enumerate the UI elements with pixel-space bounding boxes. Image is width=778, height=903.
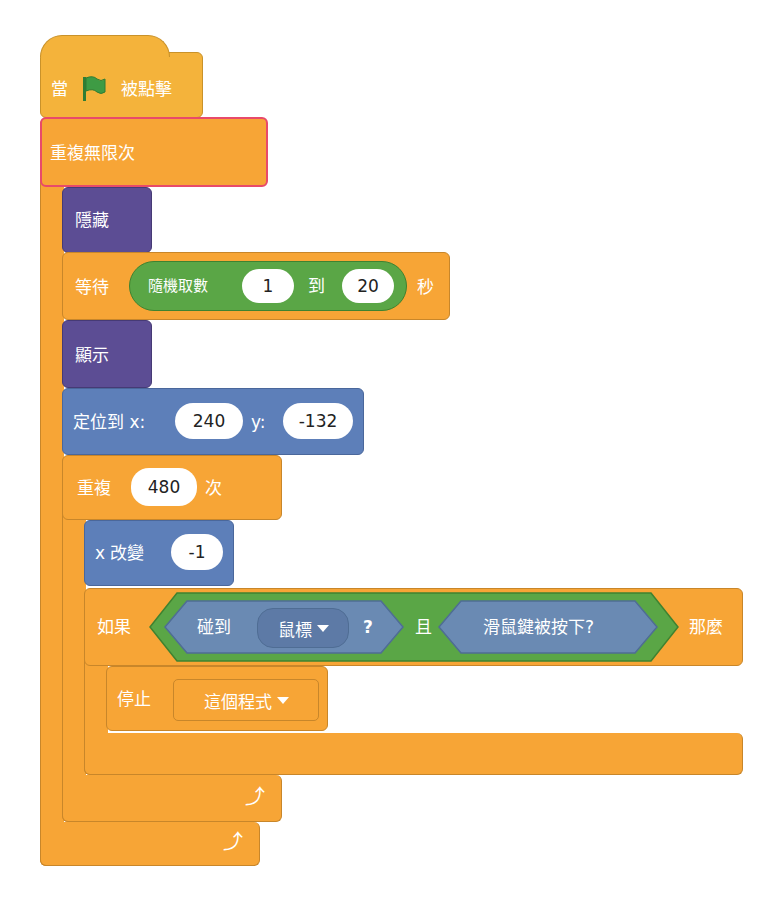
stop-option-dropdown[interactable]: 這個程式 <box>173 679 319 721</box>
touching-label: 碰到 <box>197 617 231 637</box>
forever-block[interactable]: 重複無限次 <box>40 117 268 187</box>
dropdown-arrow-icon <box>277 697 289 704</box>
mouse-down-label: 滑鼠鍵被按下? <box>483 617 594 637</box>
random-to-input[interactable]: 20 <box>342 269 394 303</box>
green-flag-icon <box>81 75 107 107</box>
stop-label: 停止 <box>117 689 151 709</box>
wait-block[interactable]: 等待 隨機取數 1 到 20 秒 <box>62 252 450 320</box>
dropdown-arrow-icon <box>317 625 329 632</box>
change-x-input[interactable]: -1 <box>171 534 223 570</box>
random-label: 隨機取數 <box>148 276 208 296</box>
show-label: 顯示 <box>75 345 109 365</box>
loop-arrow-icon: ⤴ <box>245 787 265 807</box>
and-label: 且 <box>415 617 432 637</box>
goto-y-input[interactable]: -132 <box>283 403 353 439</box>
hat-suffix: 被點擊 <box>121 79 172 99</box>
hide-block[interactable]: 隱藏 <box>62 187 152 253</box>
random-to-label: 到 <box>308 276 325 296</box>
hat-prefix: 當 <box>51 79 68 99</box>
if-label: 如果 <box>97 617 131 637</box>
forever-block-arm <box>40 118 64 866</box>
loop-arrow-icon: ⤴ <box>223 832 243 852</box>
forever-label: 重複無限次 <box>50 143 135 163</box>
change-x-block[interactable]: x 改變 -1 <box>84 520 234 586</box>
if-block-bottom <box>84 733 743 775</box>
goto-label: 定位到 x: <box>73 412 145 432</box>
random-reporter[interactable]: 隨機取數 1 到 20 <box>129 261 407 311</box>
repeat-label: 重複 <box>77 478 111 498</box>
repeat-block-bottom[interactable]: ⤴ <box>62 775 282 822</box>
forever-block-bottom[interactable]: ⤴ <box>40 822 260 866</box>
goto-x-input[interactable]: 240 <box>175 403 243 439</box>
random-from-input[interactable]: 1 <box>242 269 294 303</box>
wait-suffix: 秒 <box>417 277 434 297</box>
repeat-block[interactable]: 重複 480 次 <box>62 455 282 520</box>
hide-label: 隱藏 <box>75 210 109 230</box>
when-flag-clicked-block[interactable]: 當 被點擊 <box>40 52 203 118</box>
goto-y-label: y: <box>251 412 266 432</box>
if-block[interactable]: 如果 碰到 鼠標 ? 且 滑鼠鍵被按下? 那麼 <box>84 588 743 666</box>
if-then-label: 那麼 <box>689 617 723 637</box>
touching-q: ? <box>363 617 373 637</box>
show-block[interactable]: 顯示 <box>62 320 152 388</box>
repeat-count-input[interactable]: 480 <box>131 468 197 506</box>
goto-xy-block[interactable]: 定位到 x: 240 y: -132 <box>62 388 364 455</box>
repeat-suffix: 次 <box>205 478 222 498</box>
change-x-label: x 改變 <box>95 543 144 563</box>
wait-label: 等待 <box>75 277 109 297</box>
hat-cap <box>40 35 170 57</box>
touching-target-dropdown[interactable]: 鼠標 <box>257 608 349 648</box>
stop-block[interactable]: 停止 這個程式 <box>106 666 328 731</box>
